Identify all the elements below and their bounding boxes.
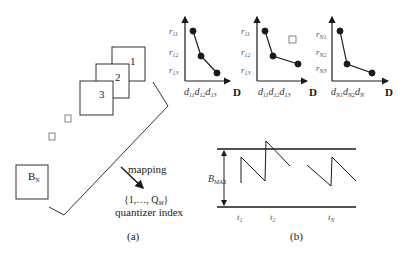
- ellipsis-square: [65, 115, 71, 122]
- chart-2: [257, 17, 307, 81]
- time-label: tN: [328, 213, 335, 223]
- x-ticks: d11d12d13: [184, 87, 217, 98]
- frame-1-label: 1: [130, 56, 136, 67]
- x-axis-label: D: [233, 87, 241, 98]
- buffer-diagram: [217, 141, 356, 207]
- time-label: t2: [270, 213, 276, 223]
- y-tick: rN3: [316, 64, 327, 74]
- buffer-sawtooth-2: [307, 157, 356, 186]
- y-tick: r12: [241, 48, 251, 58]
- buffer-sawtooth-1: [241, 141, 290, 183]
- index-caption: quantizer index: [115, 207, 183, 218]
- caption-a: (a): [127, 231, 139, 242]
- buffer-max-label: BMAX: [208, 174, 226, 185]
- caption-b: (b): [290, 231, 303, 242]
- mapping-label: mapping: [128, 164, 167, 175]
- x-axis-label: D: [309, 87, 317, 98]
- x-ticks: d11d12d13: [258, 87, 291, 98]
- time-label: t1: [237, 213, 243, 223]
- x-axis-label: D: [385, 87, 393, 98]
- ellipsis-square: [49, 133, 55, 140]
- frame-n-label: BN: [28, 171, 40, 183]
- y-tick: r12: [169, 48, 179, 58]
- frame-3: [80, 81, 113, 115]
- y-tick: rN2: [316, 48, 327, 58]
- chart-1: [185, 17, 230, 81]
- chart-3: [332, 17, 388, 81]
- diagram-canvas: [0, 0, 402, 254]
- ellipsis-square: [289, 36, 296, 43]
- y-tick: rN1: [316, 30, 327, 40]
- y-tick: r11: [169, 27, 178, 37]
- x-ticks: dN1dN2dN: [331, 87, 364, 98]
- y-tick: r13: [169, 66, 179, 76]
- y-tick: r11: [241, 27, 250, 37]
- y-tick: r13: [241, 66, 251, 76]
- index-set: {1,…, QM}: [124, 195, 168, 206]
- frame-2-label: 2: [115, 72, 121, 83]
- frame-3-label: 3: [99, 89, 105, 100]
